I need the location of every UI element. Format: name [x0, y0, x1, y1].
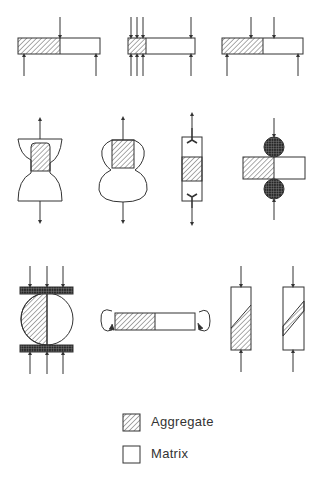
- specimen-1-three-point-bending: [18, 17, 100, 76]
- legend-aggregate-swatch: [123, 414, 140, 431]
- platen-top: [20, 287, 73, 294]
- specimen-9-torsion-bar: [101, 310, 210, 331]
- specimen-8-splitting-disc: [20, 266, 73, 374]
- roller-bottom-icon: [264, 179, 284, 199]
- specimen-11-inclined-layer-compression: [283, 266, 304, 372]
- roller-top-icon: [264, 137, 284, 157]
- specimen-6-embedded-anchor-tension: [182, 114, 202, 224]
- specimen-10-inclined-interface-compression: [231, 266, 251, 372]
- platen-bottom: [20, 345, 73, 352]
- legend-matrix-label: Matrix: [151, 446, 188, 461]
- figure-canvas: [0, 0, 324, 479]
- specimen-2-multi-point-bending: [128, 17, 195, 76]
- specimen-5-peanut-tension: [99, 118, 147, 222]
- specimen-4-hourglass-tension: [18, 119, 62, 222]
- legend-aggregate-label: Aggregate: [151, 414, 214, 429]
- specimen-3-four-point-bending: [222, 17, 303, 76]
- legend-matrix-swatch: [123, 446, 140, 463]
- specimen-7-roller-shear: [243, 118, 305, 220]
